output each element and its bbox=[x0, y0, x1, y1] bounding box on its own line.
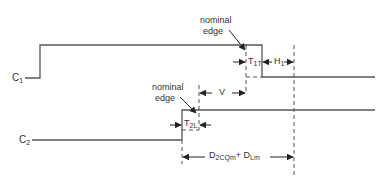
c1-nominal-edge-pointer bbox=[229, 30, 245, 50]
h1-label: H1 bbox=[274, 57, 284, 67]
c1-label: C1 bbox=[12, 73, 23, 84]
timing-diagram-canvas bbox=[0, 0, 382, 177]
c1-edge-label: edge bbox=[203, 27, 223, 36]
t1t-label: T1T bbox=[248, 57, 262, 67]
c2-nominal-label: nominal bbox=[152, 83, 184, 92]
delay-label: D2CQm+ DLm bbox=[209, 151, 260, 161]
c2-edge-label: edge bbox=[155, 94, 175, 103]
t2l-label: T2L bbox=[184, 119, 197, 129]
v-label: V bbox=[219, 88, 225, 97]
c1-waveform bbox=[25, 45, 375, 78]
c2-label: C2 bbox=[19, 135, 30, 146]
c1-nominal-label: nominal bbox=[200, 16, 232, 25]
